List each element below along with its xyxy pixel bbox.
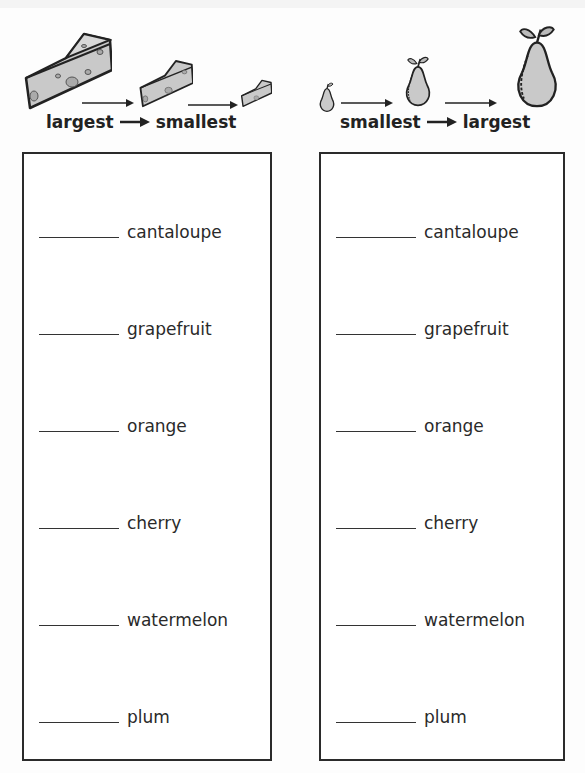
list-item: plum (336, 707, 467, 727)
arrow-right-icon (427, 117, 457, 127)
fruit-label: cherry (127, 513, 181, 533)
arrow-right-icon (120, 117, 150, 127)
arrow-right-icon (341, 99, 393, 107)
answer-blank[interactable] (336, 527, 416, 529)
arrow-right-icon (445, 99, 497, 107)
cheese-medium-icon (138, 58, 193, 108)
answer-blank[interactable] (39, 624, 119, 626)
fruit-label: cantaloupe (127, 222, 222, 242)
left-section-header: largest smallest (0, 20, 290, 140)
right-section-header: smallest largest (295, 20, 585, 140)
answer-box-smallest-to-largest: cantaloupe grapefruit orange cherry wate… (319, 152, 565, 761)
answer-blank[interactable] (336, 236, 416, 238)
fruit-label: cherry (424, 513, 478, 533)
instruction-to: largest (463, 112, 531, 132)
arrow-right-icon (82, 99, 134, 107)
list-item: cherry (39, 513, 181, 533)
fruit-label: watermelon (127, 610, 228, 630)
order-instruction-left: largest smallest (46, 112, 236, 132)
cheese-small-icon (240, 79, 272, 107)
fruit-label: plum (127, 707, 170, 727)
arrow-right-icon (188, 101, 238, 109)
fruit-label: grapefruit (127, 319, 212, 339)
list-item: watermelon (336, 610, 525, 630)
list-item: cantaloupe (336, 222, 519, 242)
list-item: orange (336, 416, 484, 436)
list-item: grapefruit (336, 319, 509, 339)
answer-box-largest-to-smallest: cantaloupe grapefruit orange cherry wate… (22, 152, 272, 761)
answer-blank[interactable] (336, 430, 416, 432)
list-item: cantaloupe (39, 222, 222, 242)
answer-blank[interactable] (39, 333, 119, 335)
instruction-to: smallest (156, 112, 237, 132)
answer-blank[interactable] (336, 333, 416, 335)
fruit-label: orange (424, 416, 484, 436)
pear-large-icon (509, 20, 565, 112)
answer-blank[interactable] (336, 721, 416, 723)
fruit-label: orange (127, 416, 187, 436)
pear-medium-icon (401, 51, 435, 111)
answer-blank[interactable] (39, 527, 119, 529)
order-instruction-right: smallest largest (340, 112, 530, 132)
list-item: plum (39, 707, 170, 727)
pear-small-icon (317, 82, 337, 112)
cropped-top-edge (0, 0, 585, 8)
list-item: watermelon (39, 610, 228, 630)
fruit-label: watermelon (424, 610, 525, 630)
list-item: orange (39, 416, 187, 436)
list-item: cherry (336, 513, 478, 533)
list-item: grapefruit (39, 319, 212, 339)
fruit-label: grapefruit (424, 319, 509, 339)
cheese-large-icon (22, 30, 112, 110)
answer-blank[interactable] (336, 624, 416, 626)
fruit-label: cantaloupe (424, 222, 519, 242)
answer-blank[interactable] (39, 430, 119, 432)
instruction-from: largest (46, 112, 114, 132)
fruit-label: plum (424, 707, 467, 727)
answer-blank[interactable] (39, 236, 119, 238)
instruction-from: smallest (340, 112, 421, 132)
answer-blank[interactable] (39, 721, 119, 723)
